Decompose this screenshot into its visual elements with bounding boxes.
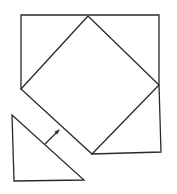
geometry-diagram <box>0 0 177 194</box>
inner-tilted-square <box>21 16 159 154</box>
outer-square <box>21 15 161 154</box>
right-triangle <box>12 115 84 181</box>
arrow-shaft <box>45 132 57 144</box>
